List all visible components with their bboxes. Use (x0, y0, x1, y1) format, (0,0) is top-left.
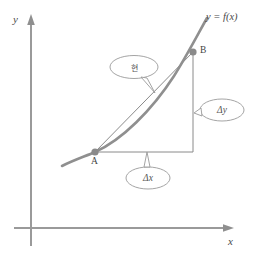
callout-delta-x-label: Δx (128, 173, 168, 183)
x-axis-label: x (228, 236, 233, 247)
point-label-a: A (91, 157, 98, 167)
callout-delta-x-group (126, 152, 170, 189)
x-axis-arrowhead (223, 224, 234, 232)
function-curve (62, 18, 207, 166)
callout-delta-x-tail (144, 152, 150, 167)
figure-canvas: y x y = f(x) A B 현 Δy Δx (0, 0, 255, 268)
point-marker-b (189, 48, 196, 55)
callout-delta-y-tail (194, 108, 202, 116)
callout-chord-label: 현 (114, 62, 154, 73)
callout-delta-y-label: Δy (202, 105, 242, 115)
callout-chord-tail (141, 77, 155, 93)
y-axis-arrowhead (27, 14, 35, 25)
point-label-b: B (200, 46, 206, 56)
diagram-svg (0, 0, 255, 268)
point-marker-a (91, 148, 98, 155)
function-label: y = f(x) (206, 12, 238, 23)
y-axis-label: y (13, 14, 18, 25)
